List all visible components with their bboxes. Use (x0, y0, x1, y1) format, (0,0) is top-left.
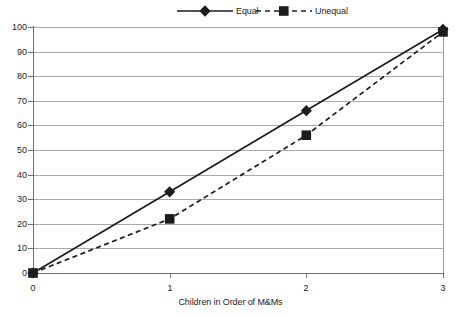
y-axis-tick-label: 60 (1, 121, 27, 130)
x-axis-line (33, 273, 444, 274)
y-axis-tick-label: 70 (1, 97, 27, 106)
gridline (33, 76, 444, 77)
y-axis-tick-label: 80 (1, 72, 27, 81)
chart-legend: Equal Unequal (0, 0, 461, 22)
y-axis-tick-label: 90 (1, 48, 27, 57)
gridline (33, 199, 444, 200)
gridline (33, 101, 444, 102)
x-axis-tick (443, 273, 444, 278)
x-axis-tick-label: 0 (21, 283, 45, 293)
legend-sample-unequal (256, 4, 312, 18)
x-axis-title: Children in Order of M&Ms (0, 297, 461, 307)
plot-right-border (443, 26, 444, 274)
gridline (33, 175, 444, 176)
legend-item-unequal: Unequal (256, 0, 348, 22)
y-axis-tick-label: 30 (1, 195, 27, 204)
gridline (33, 248, 444, 249)
gridline (33, 150, 444, 151)
x-axis-tick (170, 273, 171, 278)
y-axis-tick-label: 40 (1, 171, 27, 180)
x-axis-tick-label: 1 (158, 283, 182, 293)
diamond-marker-icon (199, 5, 210, 17)
legend-item-equal: Equal (177, 0, 259, 22)
y-axis-tick-label: 0 (1, 269, 27, 278)
x-axis-tick (33, 273, 34, 278)
y-axis-line (33, 26, 34, 274)
y-axis-tick-label: 50 (1, 146, 27, 155)
gridline (33, 224, 444, 225)
line-chart: Equal Unequal 0102030405060708090100 012… (0, 0, 461, 317)
legend-sample-equal (177, 4, 233, 18)
y-axis-tick-label: 10 (1, 244, 27, 253)
y-axis-tick-label: 20 (1, 220, 27, 229)
series-layer (0, 0, 461, 317)
gridline (33, 52, 444, 53)
legend-label-unequal: Unequal (315, 6, 348, 16)
x-axis-tick-label: 2 (294, 283, 318, 293)
diamond-marker-icon (164, 186, 175, 197)
gridline (33, 125, 444, 126)
x-axis-tick (306, 273, 307, 278)
square-marker-icon (302, 130, 312, 140)
x-axis-tick-label: 3 (431, 283, 455, 293)
series-line-equal (33, 30, 443, 274)
square-marker-icon (279, 6, 289, 16)
gridline (33, 27, 444, 28)
series-line-unequal (33, 32, 443, 273)
square-marker-icon (165, 214, 175, 224)
diamond-marker-icon (301, 105, 312, 116)
y-axis-tick-label: 100 (1, 23, 27, 32)
